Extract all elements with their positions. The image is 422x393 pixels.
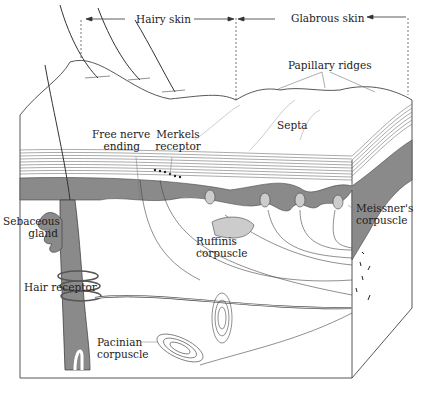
skin-diagram: Hairy skin Glabrous skin Papillary ridge…	[0, 0, 422, 393]
label-septa: Septa	[277, 119, 308, 131]
label-hairy-skin: Hairy skin	[136, 13, 191, 25]
label-papillary-ridges: Papillary ridges	[288, 59, 372, 71]
label-sebaceous-gland: Sebaceous gland	[3, 215, 58, 239]
label-pacinian-corpuscle: Pacinian corpuscle	[97, 336, 149, 360]
merkel-discs	[154, 169, 181, 178]
pacinian-nerve	[200, 313, 352, 365]
epidermis-layers	[20, 104, 412, 180]
label-hair-receptor: Hair receptor	[24, 281, 97, 293]
label-meissners-corpuscle: Meissner's corpuscle	[356, 202, 413, 226]
label-merkels-receptor: Merkels receptor	[152, 128, 204, 152]
pacinian-corpuscles	[153, 293, 232, 368]
cut-nerve-ends	[356, 252, 370, 300]
label-ruffinis-corpuscle: Ruffinis corpuscle	[196, 235, 248, 259]
label-glabrous-skin: Glabrous skin	[291, 12, 364, 24]
nerve-bundle-inner	[95, 296, 352, 308]
label-free-nerve-ending: Free nerve ending	[92, 128, 140, 152]
